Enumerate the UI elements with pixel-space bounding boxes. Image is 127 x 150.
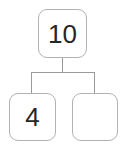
- node-root-label: 10: [48, 21, 77, 47]
- connector-root-stem: [62, 57, 63, 73]
- connector-crossbar: [31, 72, 95, 73]
- node-root[interactable]: 10: [38, 9, 87, 58]
- node-child-left[interactable]: 4: [9, 93, 56, 141]
- connector-right-branch: [94, 72, 95, 94]
- connector-left-branch: [31, 72, 32, 94]
- node-child-left-label: 4: [25, 104, 39, 130]
- node-child-right-blank[interactable]: [72, 93, 118, 141]
- number-bond-diagram: 10 4: [0, 0, 127, 150]
